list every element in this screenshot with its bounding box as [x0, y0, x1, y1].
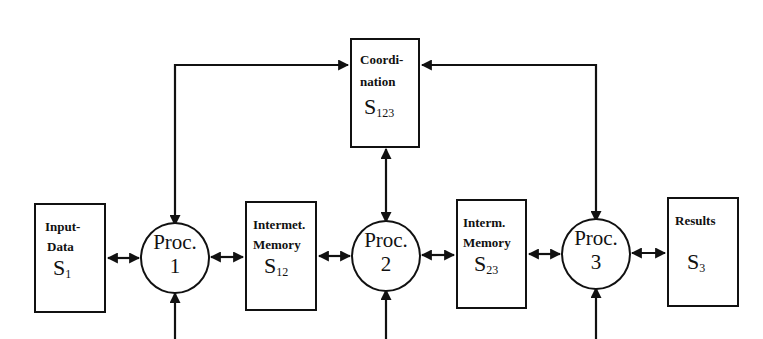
- processor-1-label: Proc.: [142, 230, 208, 254]
- processor-3: Proc. 3: [561, 218, 631, 290]
- mem12-label-2: Memory: [253, 237, 301, 252]
- coordination-label-1: Coordi-: [360, 52, 403, 67]
- input-label-2: Data: [47, 239, 74, 254]
- results-box: Results S3: [667, 197, 739, 307]
- mem23-symbol: S23: [474, 253, 498, 281]
- coordination-symbol: S123: [364, 96, 394, 124]
- mem12-label-1: Intermet.: [253, 217, 305, 232]
- mem23-label-1: Interm.: [463, 215, 505, 230]
- processor-3-number: 3: [563, 250, 629, 274]
- input-symbol: S1: [53, 257, 71, 285]
- coordination-label-2: nation: [360, 74, 395, 89]
- results-label: Results: [675, 213, 715, 228]
- processor-2-label: Proc.: [353, 228, 419, 252]
- coordination-box: Coordi- nation S123: [350, 38, 420, 148]
- processor-2: Proc. 2: [351, 220, 421, 292]
- processor-2-number: 2: [353, 252, 419, 276]
- processor-1-number: 1: [142, 254, 208, 278]
- intermediate-memory-23-box: Interm. Memory S23: [456, 199, 527, 309]
- mem23-label-2: Memory: [463, 235, 511, 250]
- arrow-coord-proc3: [422, 65, 596, 221]
- input-data-box: Input- Data S1: [34, 203, 106, 313]
- results-symbol: S3: [687, 251, 705, 279]
- processor-3-label: Proc.: [563, 226, 629, 250]
- input-label-1: Input-: [45, 219, 80, 234]
- mem12-symbol: S12: [264, 255, 288, 283]
- processor-1: Proc. 1: [140, 222, 210, 294]
- intermediate-memory-12-box: Intermet. Memory S12: [245, 201, 317, 311]
